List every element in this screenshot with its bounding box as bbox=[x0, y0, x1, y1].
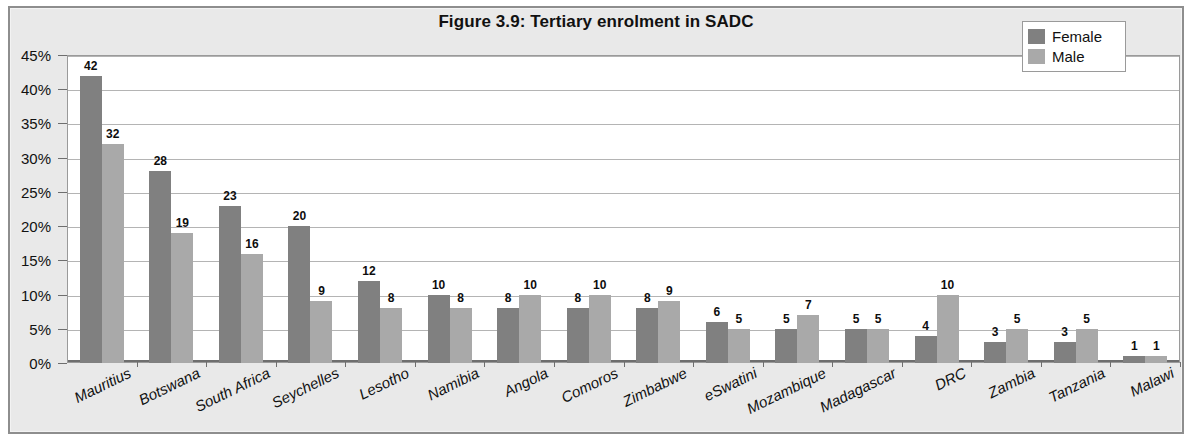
y-axis-tick-label: 10% bbox=[21, 286, 51, 303]
gridline bbox=[68, 227, 1179, 228]
gridline bbox=[68, 159, 1179, 160]
chart-legend: Female Male bbox=[1022, 21, 1126, 72]
x-axis-category-label: Seychelles bbox=[269, 364, 342, 411]
y-axis-tick-label: 5% bbox=[29, 320, 51, 337]
y-axis-tick-label: 35% bbox=[21, 115, 51, 132]
y-axis-tick-mark bbox=[58, 226, 67, 227]
y-axis-tick-mark bbox=[58, 158, 67, 159]
y-axis-tick-label: 20% bbox=[21, 218, 51, 235]
legend-item-female: Female bbox=[1028, 26, 1119, 46]
y-axis-tick-mark bbox=[58, 363, 67, 364]
x-axis-tick-mark bbox=[276, 362, 277, 367]
gridline bbox=[68, 124, 1179, 125]
figure-container: Figure 3.9: Tertiary enrolment in SADC 4… bbox=[0, 0, 1192, 441]
y-axis-tick-mark bbox=[58, 295, 67, 296]
x-axis-category-label: Malawi bbox=[1127, 364, 1176, 400]
x-axis-category-label: Namibia bbox=[424, 364, 481, 403]
x-axis-category-label: Lesotho bbox=[356, 364, 411, 403]
legend-swatch-female-icon bbox=[1028, 29, 1045, 44]
y-axis-tick-label: 40% bbox=[21, 81, 51, 98]
y-axis-tick-mark bbox=[58, 260, 67, 261]
x-axis-category-label: Tanzania bbox=[1045, 364, 1107, 406]
x-axis-tick-mark bbox=[902, 362, 903, 367]
gridline bbox=[68, 90, 1179, 91]
x-axis-category-label: Zambia bbox=[985, 364, 1037, 401]
x-axis-tick-mark bbox=[1110, 362, 1111, 367]
gridline bbox=[68, 296, 1179, 297]
x-axis-category-label: Madagascar bbox=[817, 364, 899, 415]
figure-frame: Figure 3.9: Tertiary enrolment in SADC 4… bbox=[8, 6, 1184, 434]
y-axis-tick-label: 0% bbox=[29, 355, 51, 372]
gridline bbox=[68, 330, 1179, 331]
x-axis-category-label: Zimbabwe bbox=[620, 364, 690, 410]
x-axis-tick-mark bbox=[971, 362, 972, 367]
y-axis-tick-mark bbox=[58, 329, 67, 330]
x-axis-tick-mark bbox=[554, 362, 555, 367]
x-axis-category-label: Comoros bbox=[558, 364, 620, 406]
y-axis-tick-mark bbox=[58, 123, 67, 124]
y-axis-tick-label: 25% bbox=[21, 183, 51, 200]
x-axis-tick-mark bbox=[137, 362, 138, 367]
x-axis-tick-mark bbox=[415, 362, 416, 367]
x-axis-tick-mark bbox=[693, 362, 694, 367]
y-axis: 45%40%35%30%25%20%15%10%5%0% bbox=[10, 48, 67, 370]
x-axis-tick-mark bbox=[624, 362, 625, 367]
y-axis-tick-label: 45% bbox=[21, 47, 51, 64]
x-axis-category-label: Mozambique bbox=[744, 364, 829, 417]
x-axis-tick-mark bbox=[1180, 362, 1181, 367]
x-axis-labels: MauritiusBotswanaSouth AfricaSeychellesL… bbox=[67, 364, 1180, 441]
y-axis-tick-label: 30% bbox=[21, 149, 51, 166]
y-axis-tick-mark bbox=[58, 55, 67, 56]
plot-area bbox=[67, 55, 1180, 363]
y-axis-tick-label: 15% bbox=[21, 252, 51, 269]
x-axis-category-label: South Africa bbox=[192, 364, 272, 415]
x-axis-tick-mark bbox=[484, 362, 485, 367]
gridline bbox=[68, 261, 1179, 262]
x-axis-tick-mark bbox=[763, 362, 764, 367]
legend-item-male: Male bbox=[1028, 46, 1119, 66]
x-axis-tick-mark bbox=[1041, 362, 1042, 367]
figure-title: Figure 3.9: Tertiary enrolment in SADC bbox=[10, 12, 1182, 32]
y-axis-tick-mark bbox=[58, 192, 67, 193]
legend-label-female: Female bbox=[1052, 29, 1102, 44]
legend-label-male: Male bbox=[1052, 49, 1085, 64]
gridline bbox=[68, 193, 1179, 194]
y-axis-tick-mark bbox=[58, 89, 67, 90]
legend-swatch-male-icon bbox=[1028, 49, 1045, 64]
x-axis-tick-mark bbox=[345, 362, 346, 367]
x-axis-tick-mark bbox=[206, 362, 207, 367]
x-axis-category-label: Mauritius bbox=[71, 364, 133, 406]
x-axis-category-label: Angola bbox=[501, 364, 550, 400]
x-axis-category-label: DRC bbox=[931, 364, 968, 394]
gridline bbox=[68, 56, 1179, 57]
x-axis-tick-mark bbox=[832, 362, 833, 367]
